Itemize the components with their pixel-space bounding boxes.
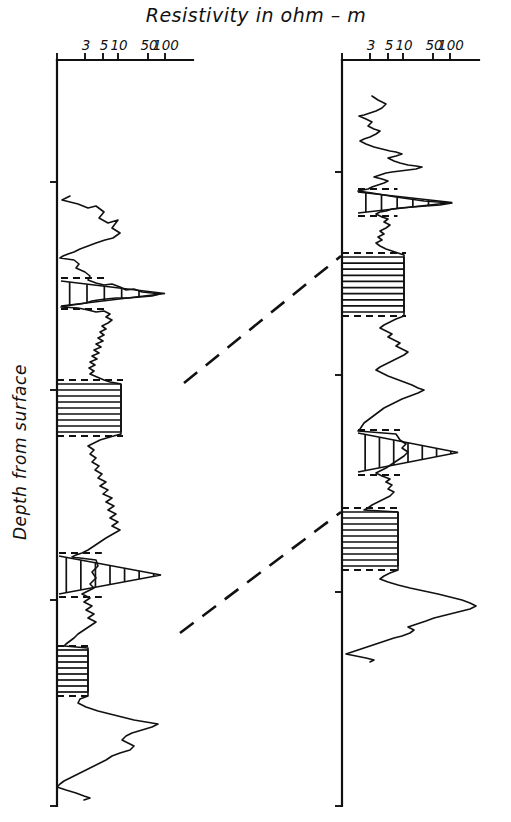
axis-tick-label-5: 5 <box>385 37 394 53</box>
axis-tick-label-5: 5 <box>100 37 109 53</box>
figure-background <box>0 0 511 822</box>
depth-axis-label: Depth from surface <box>10 364 30 540</box>
axis-tick-label-100: 100 <box>438 37 464 53</box>
axis-tick-label-3: 3 <box>367 37 376 53</box>
resistivity-log-figure: Resistivity in ohm – m Depth from surfac… <box>0 0 511 822</box>
figure-title: Resistivity in ohm – m <box>146 4 367 26</box>
axis-tick-label-10: 10 <box>395 37 412 53</box>
axis-tick-label-100: 100 <box>153 37 179 53</box>
axis-tick-label-10: 10 <box>110 37 127 53</box>
axis-tick-label-3: 3 <box>82 37 91 53</box>
log-figure-canvas: Resistivity in ohm – m Depth from surfac… <box>0 0 511 822</box>
